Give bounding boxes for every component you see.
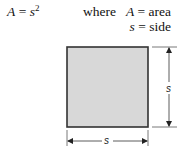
square-figure: s s xyxy=(0,0,180,146)
horizontal-dimension-label: s xyxy=(104,135,109,146)
square-shape xyxy=(67,47,148,127)
vertical-dimension-label: s xyxy=(166,83,171,94)
